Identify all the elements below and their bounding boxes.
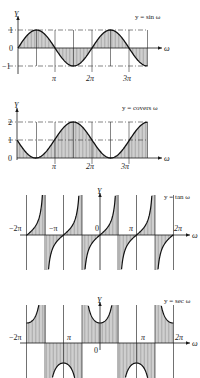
tan-title: y = tan ω xyxy=(164,193,190,201)
covers-xtick-pi: π xyxy=(52,162,57,171)
tan-chart: Y y = tan ω ω −2π −π 0 π 2π xyxy=(9,187,198,270)
sin-ytick-1: 1 xyxy=(9,26,13,35)
covers-xtick-3pi: 3π xyxy=(120,162,130,171)
trig-function-figure: Y y = sin ω ω 1 0 −1 π 2π 3π Y y = cover… xyxy=(0,0,200,378)
sec-xtick-2pi: 2π xyxy=(175,333,184,342)
sec-xtick-pi: π xyxy=(141,333,146,342)
sec-chart: Y y = sec ω ω −2π π 0 π 2π xyxy=(9,296,198,378)
covers-ytick-0: 0 xyxy=(8,154,12,163)
tan-xtick-2pi: 2π xyxy=(174,224,183,233)
sin-title: y = sin ω xyxy=(135,13,161,21)
covers-x-label: ω xyxy=(164,154,170,163)
sin-chart: Y y = sin ω ω 1 0 −1 π 2π 3π xyxy=(2,10,170,83)
tan-y-label: Y xyxy=(97,187,103,196)
covers-title: y = covers ω xyxy=(122,104,158,112)
sin-xtick-pi: π xyxy=(52,74,57,83)
sec-y-label: Y xyxy=(97,296,103,305)
tan-x-label: ω xyxy=(192,231,198,240)
sin-y-label: Y xyxy=(14,10,20,19)
sin-xtick-3pi: 3π xyxy=(122,74,132,83)
covers-chart: Y y = covers ω ω 2 1 0 π 2π 3π xyxy=(8,101,170,171)
tan-xtick-0: 0 xyxy=(95,224,99,233)
covers-y-label: Y xyxy=(14,101,20,110)
sec-xtick-m2pi: −2π xyxy=(9,333,22,342)
covers-ytick-1: 1 xyxy=(8,136,12,145)
sin-x-label: ω xyxy=(164,44,170,53)
sec-x-label: ω xyxy=(192,339,198,348)
sec-xtick-mpi: π xyxy=(67,333,72,342)
sin-xtick-2pi: 2π xyxy=(86,74,95,83)
covers-ytick-2: 2 xyxy=(8,118,12,127)
tan-xtick-mpi: −π xyxy=(49,224,58,233)
sin-ytick-0: 0 xyxy=(9,44,13,53)
sec-xtick-0: 0 xyxy=(94,346,98,355)
covers-xtick-2pi: 2π xyxy=(86,162,95,171)
sec-title: y = sec ω xyxy=(164,297,191,305)
sin-ytick-m1: −1 xyxy=(2,62,11,71)
tan-xtick-pi: π xyxy=(129,224,134,233)
tan-xtick-m2pi: −2π xyxy=(9,224,22,233)
